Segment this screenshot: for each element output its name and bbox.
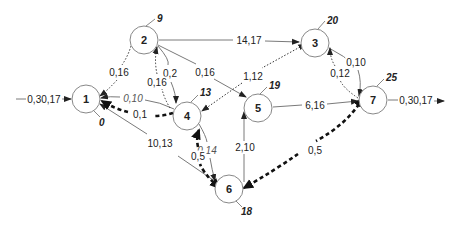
edge-4-2-label: 0,16 [147, 77, 167, 88]
edge-2-4: 0,2 [158, 46, 178, 103]
edge-2-5-label: 0,16 [195, 67, 215, 78]
node-2-label: 2 [141, 34, 147, 46]
edge-6-5: 2,10 [234, 112, 256, 182]
edge-3-7-label: 0,10 [346, 57, 366, 68]
node-7-time: 25 [385, 72, 398, 83]
edge-4-1-label: 0,10 [123, 93, 143, 104]
node-7-label: 7 [370, 94, 376, 106]
edge-6-4-critical-label: 0,5 [191, 151, 205, 162]
node-1-label: 1 [83, 93, 89, 105]
edge-2-1: 0,16 [100, 46, 131, 96]
node-4-label: 4 [184, 110, 191, 122]
node-1: 1 0 [72, 85, 105, 128]
edge-2-3-label: 14,17 [236, 35, 261, 46]
edge-7-3-label: 0,12 [330, 68, 350, 79]
exit-edge: 0,30,17 [388, 95, 444, 106]
edge-6-1-label: 10,13 [147, 138, 172, 149]
node-7: 7 25 [359, 72, 398, 114]
node-2: 2 9 [130, 13, 163, 54]
node-6-time: 18 [241, 206, 253, 217]
node-6-label: 6 [226, 183, 232, 195]
edge-4-2: 0,16 [146, 47, 170, 108]
edge-5-7-label: 6,16 [305, 100, 325, 111]
edge-5-7: 6,16 [273, 100, 358, 111]
node-5: 5 19 [244, 80, 281, 122]
node-3-label: 3 [312, 37, 318, 49]
node-6: 6 18 [215, 175, 253, 217]
node-3: 3 20 [301, 15, 339, 57]
node-1-time: 0 [99, 117, 105, 128]
node-3-time: 20 [326, 15, 339, 26]
edge-6-4-critical: 0,5 [190, 130, 214, 183]
node-2-time: 9 [157, 13, 163, 24]
entry-edge-label: 0,30,17 [27, 94, 61, 105]
exit-edge-label: 0,30,17 [399, 95, 433, 106]
edge-2-3: 14,17 [159, 35, 299, 46]
edge-6-5-label: 2,10 [235, 142, 255, 153]
node-5-label: 5 [255, 102, 261, 114]
edge-2-1-label: 0,16 [109, 67, 129, 78]
node-4-time: 13 [200, 87, 212, 98]
edge-4-1-critical-label: 0,1 [133, 109, 147, 120]
entry-edge: 0,30,17 [16, 94, 71, 105]
network-diagram: 0,30,17 0,30,17 14,17 0,16 0,2 0,10 10,1… [0, 0, 458, 226]
node-5-time: 19 [269, 80, 281, 91]
edge-7-3: 0,12 [329, 48, 358, 98]
edge-7-6-critical-label: 0,5 [308, 145, 322, 156]
edge-3-4-label: 1,12 [243, 71, 263, 82]
